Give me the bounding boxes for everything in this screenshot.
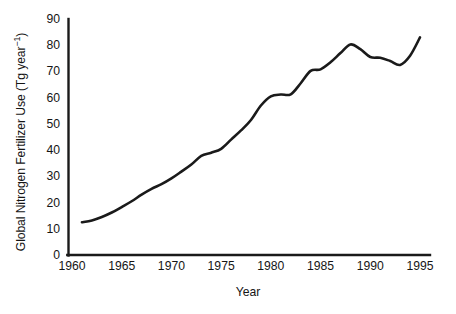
chart-figure: Global Nitrogen Fertilizer Use (Tg year−… bbox=[0, 0, 456, 314]
data-series-line bbox=[82, 37, 420, 222]
plot-area bbox=[0, 0, 456, 314]
